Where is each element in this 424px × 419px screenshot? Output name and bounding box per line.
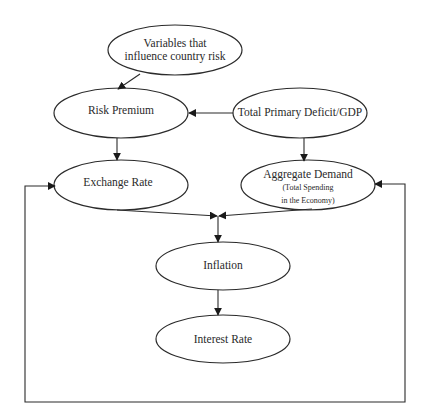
node-exchange-rate-label: Exchange Rate xyxy=(83,176,152,189)
node-deficit-label: Total Primary Deficit/GDP xyxy=(238,106,362,119)
node-variables-label: Variables that influence country risk xyxy=(125,37,226,63)
node-variables-line1: Variables that xyxy=(144,37,207,49)
node-aggregate-demand-title: Aggregate Demand xyxy=(263,168,353,180)
node-aggregate-demand-sub2: in the Economy) xyxy=(263,195,353,208)
node-interest-rate-label: Interest Rate xyxy=(194,333,252,346)
edge-feedback-to-aggregate-demand xyxy=(215,184,405,402)
node-variables-line2: influence country risk xyxy=(125,50,226,62)
node-inflation-label: Inflation xyxy=(203,259,243,272)
edge-aggregate-demand-to-junction xyxy=(219,209,312,216)
edge-exchange-rate-to-junction xyxy=(117,210,217,216)
edge-variables-to-risk-premium xyxy=(118,74,140,89)
node-aggregate-demand-label: Aggregate Demand (Total Spending in the … xyxy=(263,164,353,208)
node-aggregate-demand-sub1: (Total Spending xyxy=(263,182,353,195)
edge-feedback-to-exchange-rate xyxy=(25,186,215,402)
node-risk-premium-label: Risk Premium xyxy=(88,104,154,117)
